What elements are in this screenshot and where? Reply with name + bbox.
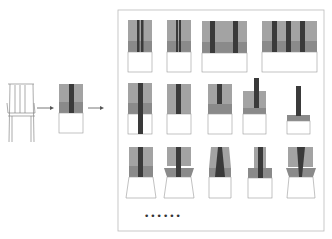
ellipsis-text: ••••••: [144, 211, 182, 221]
variation-bar-full-back: [167, 84, 191, 134]
variation-three-bars-wide: [262, 21, 317, 72]
variation-tapered-seat: [126, 147, 156, 198]
arrow-right-icon: [88, 106, 104, 110]
variation-short-bar: [208, 84, 232, 134]
diagram-canvas: ••••••: [0, 0, 332, 239]
variation-two-bars-wide: [202, 21, 247, 72]
variation-two-bars-narrow: [128, 20, 152, 72]
variation-flared-seat: [164, 147, 194, 198]
base-block: [59, 84, 83, 133]
variation-bar-extends-down: [128, 83, 152, 134]
variation-tapered-bar: [209, 147, 231, 198]
variation-tapered-bar-flared: [286, 147, 316, 198]
chair-sketch-icon: [7, 84, 35, 142]
arrow-right-icon: [37, 106, 54, 110]
variation-two-bars-close: [167, 20, 191, 72]
